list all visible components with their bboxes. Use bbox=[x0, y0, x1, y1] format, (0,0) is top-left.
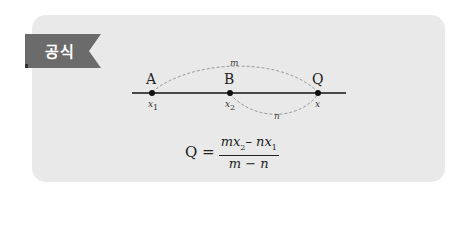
point-b-label: B bbox=[224, 71, 234, 87]
coord-a: x1 bbox=[148, 99, 158, 112]
point-q-dot bbox=[315, 90, 321, 96]
coord-q: x bbox=[315, 99, 320, 109]
ratio-n-label: n bbox=[274, 111, 280, 121]
point-a-label: A bbox=[146, 71, 156, 87]
arc-upper bbox=[152, 66, 318, 92]
ratio-m-label: m bbox=[230, 58, 239, 68]
formula-numerator: mx2– nx1 bbox=[219, 134, 279, 155]
formula-denominator: m − n bbox=[227, 156, 271, 171]
section-formula: Q = mx2– nx1 m − n bbox=[185, 134, 279, 171]
formula-fraction: mx2– nx1 m − n bbox=[219, 134, 279, 171]
formula-lhs: Q = bbox=[185, 143, 215, 161]
point-q-label: Q bbox=[312, 71, 323, 87]
point-a-dot bbox=[149, 90, 155, 96]
point-b-dot bbox=[227, 90, 233, 96]
coord-b: x2 bbox=[225, 99, 235, 112]
